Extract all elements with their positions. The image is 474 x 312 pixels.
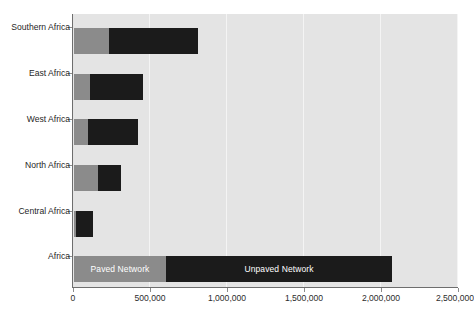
x-tick-1000000 xyxy=(227,288,228,292)
y-axis-label-east-africa: East Africa xyxy=(29,68,70,78)
x-axis-label-1000000: 1,000,000 xyxy=(208,293,246,303)
bar-segment-unpaved-east-africa[interactable] xyxy=(90,74,143,100)
y-axis-line xyxy=(72,14,73,288)
x-tick-2500000 xyxy=(458,288,459,292)
bar-segment-unpaved-africa[interactable]: Unpaved Network xyxy=(166,256,392,282)
x-axis-label-0: 0 xyxy=(71,293,76,303)
y-axis-label-central-africa: Central Africa xyxy=(18,206,70,216)
x-tick-500000 xyxy=(150,288,151,292)
x-tick-1500000 xyxy=(304,288,305,292)
x-tick-2000000 xyxy=(381,288,382,292)
gridline-1500000 xyxy=(303,14,304,288)
bar-segment-paved-north-africa[interactable] xyxy=(74,165,98,191)
x-axis-label-2500000: 2,500,000 xyxy=(436,293,474,303)
bar-segment-paved-southern-africa[interactable] xyxy=(74,28,109,54)
gridline-1000000 xyxy=(226,14,227,288)
x-tick-0 xyxy=(73,288,74,292)
bar-segment-unpaved-southern-africa[interactable] xyxy=(109,28,198,54)
gridline-500000 xyxy=(149,14,150,288)
legend-label-paved-network: Paved Network xyxy=(74,256,166,282)
bar-segment-unpaved-central-africa[interactable] xyxy=(76,211,93,237)
x-axis-line xyxy=(72,287,458,288)
y-axis-label-africa: Africa xyxy=(48,251,70,261)
bar-segment-paved-africa[interactable]: Paved Network xyxy=(74,256,166,282)
bar-segment-paved-west-africa[interactable] xyxy=(74,119,88,145)
gridline-2500000 xyxy=(457,14,458,288)
x-axis-label-1500000: 1,500,000 xyxy=(285,293,323,303)
legend-label-unpaved-network: Unpaved Network xyxy=(166,256,392,282)
y-axis-label-southern-africa: Southern Africa xyxy=(11,22,70,32)
x-axis-label-2000000: 2,000,000 xyxy=(362,293,400,303)
bar-segment-unpaved-north-africa[interactable] xyxy=(98,165,121,191)
bar-segment-paved-east-africa[interactable] xyxy=(74,74,90,100)
y-axis-label-north-africa: North Africa xyxy=(25,160,70,170)
plot-area: Paved Network Unpaved Network xyxy=(73,14,458,288)
bar-segment-unpaved-west-africa[interactable] xyxy=(88,119,138,145)
gridline-2000000 xyxy=(380,14,381,288)
x-axis-label-500000: 500,000 xyxy=(134,293,165,303)
y-axis-label-west-africa: West Africa xyxy=(27,114,70,124)
